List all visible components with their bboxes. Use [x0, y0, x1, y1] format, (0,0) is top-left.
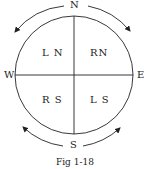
label-north: N	[70, 0, 79, 10]
arrow-bottom-left	[23, 127, 63, 146]
label-east: E	[137, 70, 144, 80]
quadrant-top-right: RN	[90, 48, 108, 58]
quadrant-bottom-right: L S	[90, 95, 110, 105]
arrow-bottom-right	[83, 128, 120, 146]
figure-caption: Fig 1-18	[56, 157, 94, 167]
label-south: S	[70, 140, 77, 150]
label-west: W	[4, 70, 14, 80]
quadrant-bottom-left: R S	[42, 95, 63, 105]
quadrant-top-left: L N	[42, 48, 64, 58]
